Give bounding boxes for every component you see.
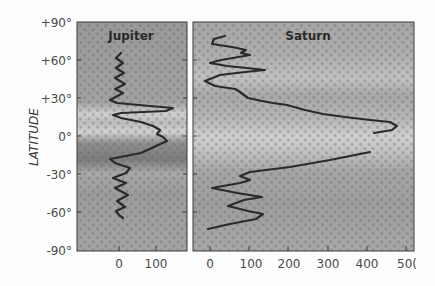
y-tick-label: +60°	[41, 54, 72, 68]
y-tick-label: 0°	[58, 130, 72, 144]
y-axis-ticks: +90° +60° +30° 0° -30° -60° -90°	[41, 16, 72, 258]
saturn-x-tick-label: 50(	[397, 257, 417, 271]
saturn-x-tick-label: 300	[317, 257, 340, 271]
saturn-x-tick-label: 200	[278, 257, 301, 271]
y-axis-title: LATITUDE	[27, 108, 41, 166]
y-tick-label: +90°	[41, 16, 72, 30]
jupiter-texture	[77, 22, 187, 251]
wind-profile-chart: +90° +60° +30° 0° -30° -60° -90° LATITUD…	[0, 0, 435, 286]
saturn-title: Saturn	[285, 29, 330, 43]
jupiter-title: Jupiter	[107, 29, 154, 43]
jupiter-x-tick-label: 0	[115, 257, 123, 271]
saturn-texture	[193, 22, 414, 251]
y-tick-label: -90°	[46, 244, 72, 258]
saturn-x-tick-label: 400	[356, 257, 379, 271]
saturn-x-tick-label: 100	[240, 257, 263, 271]
jupiter-x-tick-label: 100	[145, 257, 168, 271]
y-tick-label: -30°	[46, 168, 72, 182]
y-tick-label: +30°	[41, 92, 72, 106]
saturn-panel: Saturn 0 100 200 300 400 50(	[193, 22, 417, 271]
y-tick-label: -60°	[46, 206, 72, 220]
jupiter-panel: Jupiter 0 100	[77, 22, 187, 271]
saturn-x-tick-label: 0	[206, 257, 214, 271]
